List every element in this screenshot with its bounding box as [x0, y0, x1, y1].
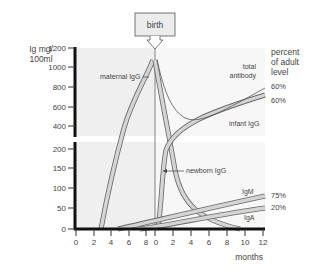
- svg-text:60%: 60%: [271, 96, 286, 105]
- svg-text:600: 600: [53, 103, 67, 112]
- percent-label-line1: percent: [271, 47, 300, 57]
- svg-text:20%: 20%: [271, 203, 286, 212]
- svg-text:4: 4: [189, 238, 194, 247]
- svg-text:6: 6: [127, 238, 132, 247]
- svg-text:75%: 75%: [271, 191, 286, 200]
- chart: 1200 1000 800 600 400 200 150 100 50 0 0…: [0, 0, 316, 273]
- svg-text:800: 800: [53, 83, 67, 92]
- total-antibody-label-line2: antibody: [230, 72, 257, 80]
- x-tick-labels: 0 2 4 6 8 0 2 4 6 8 10 12: [74, 238, 268, 247]
- y-axis-label-line2: 100ml: [29, 54, 52, 64]
- birth-annotation: birth: [135, 13, 175, 49]
- maternal-igg-label: maternal IgG: [100, 73, 140, 81]
- svg-text:60%: 60%: [271, 82, 286, 91]
- svg-text:6: 6: [207, 238, 212, 247]
- svg-text:12: 12: [259, 238, 268, 247]
- svg-text:0: 0: [154, 238, 159, 247]
- newborn-igg-label: newborn IgG: [186, 167, 226, 175]
- percent-values: 60% 60% 75% 20%: [271, 82, 286, 212]
- svg-text:2: 2: [171, 238, 176, 247]
- svg-text:0: 0: [74, 238, 79, 247]
- svg-text:10: 10: [241, 238, 250, 247]
- iga-label: IgA: [244, 214, 255, 222]
- svg-text:2: 2: [92, 238, 97, 247]
- y-axis-label-line1: Ig mg/: [29, 44, 53, 54]
- infant-igg-label: infant IgG: [229, 120, 259, 128]
- svg-text:8: 8: [144, 238, 149, 247]
- percent-label-line3: level: [271, 67, 289, 77]
- svg-text:8: 8: [225, 238, 230, 247]
- svg-text:200: 200: [53, 145, 67, 154]
- svg-text:150: 150: [53, 164, 67, 173]
- birth-label: birth: [147, 20, 164, 30]
- total-antibody-label-line1: total: [243, 63, 257, 70]
- x-axis-label: months: [235, 252, 263, 262]
- svg-text:1000: 1000: [48, 63, 66, 72]
- svg-text:50: 50: [57, 204, 66, 213]
- svg-text:0: 0: [62, 225, 67, 234]
- svg-text:4: 4: [109, 238, 114, 247]
- svg-text:400: 400: [53, 122, 67, 131]
- percent-label-line2: of adult: [271, 57, 300, 67]
- svg-text:100: 100: [53, 184, 67, 193]
- axis-break-band: [60, 136, 270, 142]
- igm-label: IgM: [242, 188, 254, 196]
